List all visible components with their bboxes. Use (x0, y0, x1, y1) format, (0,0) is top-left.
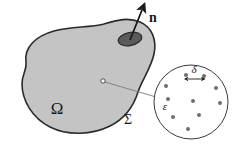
particle-dot (171, 115, 175, 119)
interior-point-marker (101, 79, 105, 83)
domain-label-omega: Ω (51, 99, 64, 118)
particle-size-label-epsilon: ε (163, 100, 168, 112)
particle-dot (164, 84, 168, 88)
particle-spacing-label-delta: δ (191, 63, 197, 75)
particle-dot (214, 86, 218, 90)
particle-dot (191, 99, 195, 103)
particle-dot (218, 101, 222, 105)
particle-dot (184, 73, 188, 77)
particle-dot (202, 74, 206, 78)
particle-dot (197, 113, 201, 117)
boundary-label-sigma: Σ (124, 112, 132, 127)
domain-boundary-diagram: n Ω Σ δ ε (0, 0, 237, 147)
particle-dot (186, 127, 190, 131)
normal-vector-label: n (149, 10, 157, 25)
figure-container: n Ω Σ δ ε (0, 0, 237, 147)
